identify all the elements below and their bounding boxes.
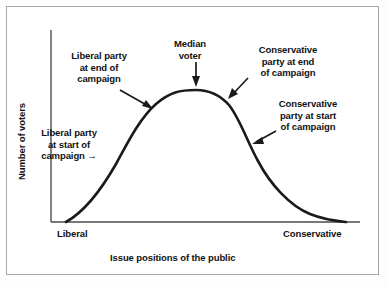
annotation-liberal-party-end: Liberal party at end of campaign xyxy=(60,50,138,85)
arrow-median-voter xyxy=(192,62,200,87)
chart-figure: Liberal party at end of campaign Liberal… xyxy=(0,0,386,288)
arrow-conservative-party-end xyxy=(228,78,248,99)
x-axis-tick-conservative: Conservative xyxy=(283,228,341,239)
annotation-conservative-party-end: Conservative party at end of campaign xyxy=(245,44,331,79)
annotation-liberal-party-start: Liberal party at start of campaign → xyxy=(26,127,112,162)
y-axis-title: Number of voters xyxy=(16,92,27,192)
x-axis-tick-liberal: Liberal xyxy=(57,228,87,239)
annotation-median-voter: Median voter xyxy=(160,38,220,61)
annotation-conservative-party-start: Conservative party at start of campaign xyxy=(263,98,353,133)
arrow-liberal-party-end xyxy=(120,90,153,109)
x-axis-title: Issue positions of the public xyxy=(110,252,235,263)
arrow-conservative-party-start xyxy=(252,131,276,144)
